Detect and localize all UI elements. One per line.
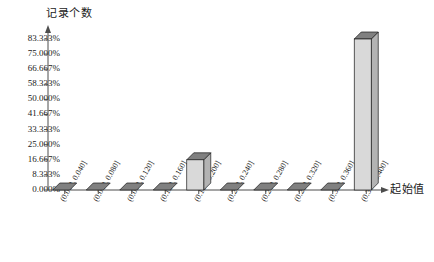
bar-4 <box>153 183 177 190</box>
bar-5 <box>187 153 211 190</box>
x-axis-arrow-icon <box>381 187 389 193</box>
bar-top-face <box>321 183 345 190</box>
bar-8 <box>287 183 311 190</box>
bar-9 <box>321 183 345 190</box>
bar-series <box>53 32 379 190</box>
bar-top-face <box>86 183 110 190</box>
bar-3 <box>120 183 144 190</box>
bar-10 <box>354 32 378 190</box>
bar-side-face <box>371 32 378 190</box>
bar-6 <box>220 183 244 190</box>
bar-top-face <box>153 183 177 190</box>
bar-7 <box>254 183 278 190</box>
bar-top-face <box>220 183 244 190</box>
chart-container: 记录个数 起始值 0.000%8.333%16.667%25.000%33.33… <box>0 0 434 262</box>
bar-2 <box>86 183 110 190</box>
bar-front-face <box>187 160 204 190</box>
y-axis-arrow-icon <box>45 25 51 33</box>
bar-top-face <box>120 183 144 190</box>
bar-top-face <box>254 183 278 190</box>
axes <box>44 25 389 194</box>
bar-top-face <box>53 183 77 190</box>
plot-area <box>0 0 434 262</box>
bar-1 <box>53 183 77 190</box>
bar-front-face <box>354 39 371 190</box>
bar-top-face <box>287 183 311 190</box>
